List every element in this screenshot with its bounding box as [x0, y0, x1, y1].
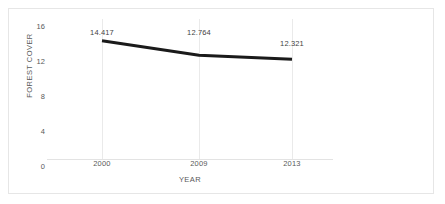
data-label-2000: 14.417 [72, 28, 132, 37]
data-label-2013: 12.321 [262, 39, 322, 48]
plot-area: 16 12 8 4 0 2000 2009 2013 FOREST COVER … [9, 9, 435, 195]
chart-frame: 16 12 8 4 0 2000 2009 2013 FOREST COVER … [8, 8, 434, 194]
data-label-2009: 12.764 [169, 28, 229, 37]
